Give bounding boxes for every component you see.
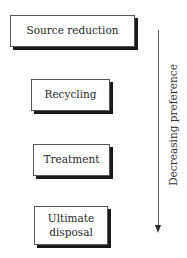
- box-label: Ultimate disposal: [48, 212, 94, 238]
- hierarchy-box-source-reduction: Source reduction: [10, 15, 135, 47]
- arrow-down-icon: [155, 225, 161, 233]
- preference-axis-label: Decreasing preference: [167, 64, 179, 186]
- preference-arrow-line: [158, 30, 159, 226]
- hierarchy-box-ultimate-disposal: Ultimate disposal: [34, 206, 108, 245]
- box-label: Recycling: [44, 88, 96, 101]
- box-label-line-2: disposal: [49, 226, 93, 238]
- box-label-line-1: Ultimate: [48, 212, 94, 224]
- hierarchy-box-treatment: Treatment: [33, 144, 110, 176]
- box-label: Source reduction: [27, 24, 119, 37]
- hierarchy-box-recycling: Recycling: [31, 79, 110, 111]
- box-label: Treatment: [44, 153, 100, 166]
